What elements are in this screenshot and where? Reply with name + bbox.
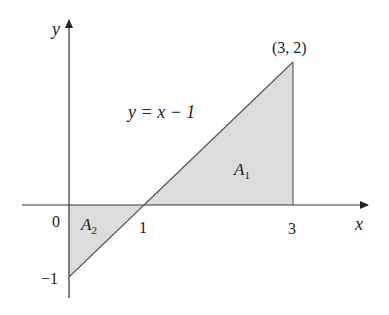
graph: y x 0 1 3 −1 (3, 2) y = x − 1 A1 A2 (0, 0, 389, 315)
origin-label: 0 (52, 213, 60, 230)
x-tick-3: 3 (288, 220, 296, 237)
point-label: (3, 2) (272, 39, 307, 57)
x-tick-1: 1 (139, 219, 147, 236)
curve-label: y = x − 1 (126, 102, 195, 122)
x-axis-label: x (354, 214, 363, 234)
y-axis-label: y (50, 19, 60, 39)
y-tick-neg1: −1 (41, 270, 58, 287)
